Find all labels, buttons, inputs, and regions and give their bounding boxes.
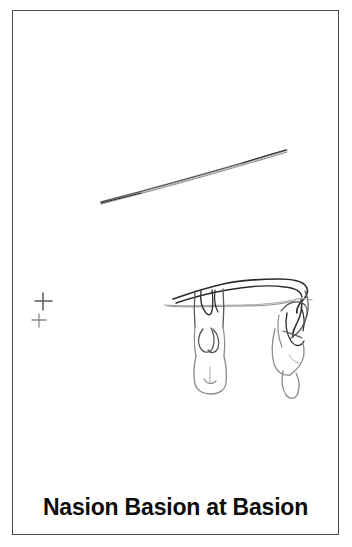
upper-cross-marker (35, 293, 52, 310)
figure-caption: Nasion Basion at Basion (13, 481, 338, 534)
figure-panel: Nasion Basion at Basion (12, 10, 339, 535)
anatomical-sketch (13, 11, 338, 481)
right-tooth-outline (272, 302, 307, 398)
lower-cross-marker (32, 314, 46, 327)
basion-outline-curve (173, 279, 308, 337)
caption-text: Nasion Basion at Basion (43, 496, 308, 519)
needle-line (101, 150, 287, 204)
drawing-area (13, 11, 338, 481)
